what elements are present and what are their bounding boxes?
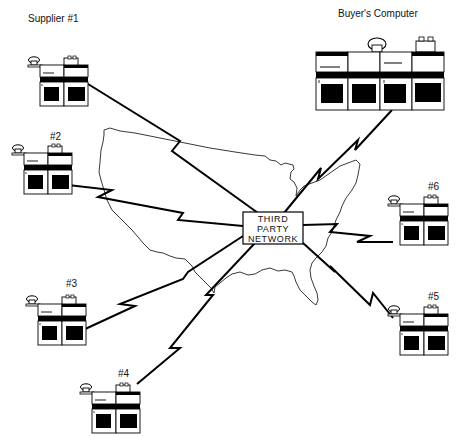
- supplier-6-label: #6: [428, 181, 440, 192]
- supplier-5: #5: [388, 291, 448, 355]
- computer-icon: [388, 195, 448, 245]
- supplier-2: #2: [12, 131, 72, 194]
- supplier-1: Supplier #1: [28, 13, 88, 106]
- link-supplier-5: [303, 243, 393, 318]
- link-buyer: [284, 110, 392, 213]
- supplier-2-label: #2: [50, 131, 62, 142]
- computer-icon: [28, 56, 88, 106]
- mainframe-icon: [316, 37, 444, 110]
- supplier-3-label: #3: [66, 278, 78, 289]
- hub-label-line-1: THIRD: [258, 214, 289, 224]
- link-supplier-3: [83, 236, 243, 330]
- computer-icon: [80, 383, 140, 433]
- buyer-computer: Buyer's Computer: [316, 8, 444, 110]
- link-supplier-4: [137, 243, 255, 384]
- supplier-4-label: #4: [118, 368, 130, 379]
- hub-label-line-2: PARTY: [257, 224, 289, 234]
- link-supplier-1: [88, 84, 258, 213]
- computer-icon: [26, 295, 86, 345]
- supplier-4: #4: [80, 368, 140, 433]
- hub-label-line-3: NETWORK: [248, 234, 298, 244]
- computer-icon: [388, 305, 448, 355]
- link-supplier-2: [68, 185, 243, 226]
- supplier-6: #6: [388, 181, 448, 245]
- network-diagram: THIRD PARTY NETWORK: [0, 0, 460, 446]
- supplier-1-label: Supplier #1: [28, 13, 79, 24]
- computer-icon: [12, 144, 72, 194]
- buyer-label: Buyer's Computer: [338, 8, 418, 19]
- supplier-3: #3: [26, 278, 86, 345]
- link-supplier-6: [303, 224, 393, 242]
- us-map-outline: [99, 128, 360, 305]
- third-party-network-hub: THIRD PARTY NETWORK: [243, 212, 303, 244]
- supplier-5-label: #5: [428, 291, 440, 302]
